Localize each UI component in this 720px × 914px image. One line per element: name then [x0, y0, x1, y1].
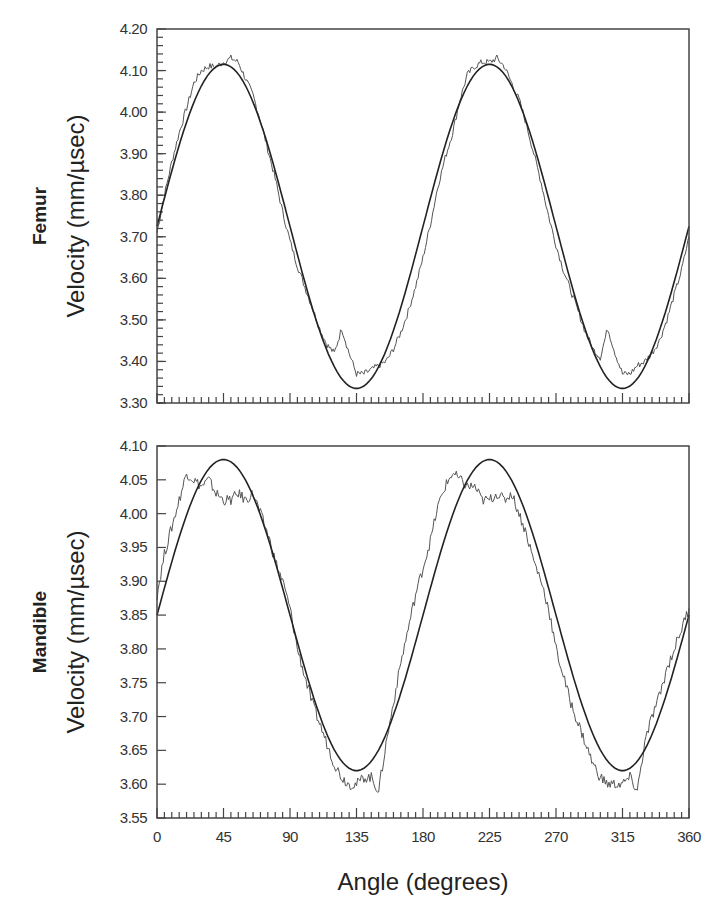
x-tick-label: 0	[153, 828, 161, 845]
x-tick-label: 225	[478, 828, 502, 845]
mandible-measured-line	[157, 471, 689, 792]
y-tick-label: 4.10	[120, 437, 147, 454]
y-tick-label: 3.60	[120, 775, 147, 792]
y-tick-label: 3.60	[120, 269, 147, 286]
y-tick-label: 4.00	[120, 103, 147, 120]
y-tick-label: 4.10	[120, 62, 147, 79]
y-tick-label: 3.95	[120, 538, 147, 555]
x-tick-label: 270	[544, 828, 568, 845]
x-tick-label: 45	[216, 828, 232, 845]
x-tick-label: 135	[345, 828, 369, 845]
x-tick-label: 180	[411, 828, 435, 845]
y-tick-label: 4.05	[120, 471, 147, 488]
x-tick-label: 315	[611, 828, 635, 845]
y-tick-label: 3.40	[120, 352, 147, 369]
y-tick-label: 3.85	[120, 606, 147, 623]
chart-figure: 3.303.403.503.603.703.803.904.004.104.20…	[0, 0, 720, 914]
mandible-panel-title: Mandible	[29, 591, 50, 673]
y-tick-label: 3.70	[120, 708, 147, 725]
y-tick-label: 3.30	[120, 394, 147, 411]
femur-plot-frame	[157, 29, 689, 403]
x-tick-label: 360	[677, 828, 701, 845]
mandible-y-axis-title: Velocity (mm/µsec)	[62, 530, 89, 733]
femur-panel-title: Femur	[29, 186, 50, 245]
femur-x-axis	[157, 393, 689, 403]
y-tick-label: 3.80	[120, 186, 147, 203]
mandible-x-axis	[157, 808, 689, 818]
femur-y-axis-title: Velocity (mm/µsec)	[62, 114, 89, 317]
y-tick-label: 3.65	[120, 741, 147, 758]
y-tick-label: 3.55	[120, 809, 147, 826]
y-tick-label: 3.70	[120, 228, 147, 245]
mandible-fit-line	[157, 460, 689, 771]
y-tick-label: 3.90	[120, 145, 147, 162]
y-tick-label: 3.90	[120, 572, 147, 589]
x-axis-tick-labels: 04590135180225270315360	[153, 828, 701, 845]
x-tick-label: 90	[282, 828, 298, 845]
y-tick-label: 4.20	[120, 20, 147, 37]
femur-fit-line	[157, 64, 689, 388]
femur-measured-line	[157, 55, 689, 377]
femur-plot: 3.303.403.503.603.703.803.904.004.104.20	[120, 20, 689, 411]
y-tick-label: 3.50	[120, 311, 147, 328]
y-tick-label: 3.75	[120, 674, 147, 691]
y-tick-label: 3.80	[120, 640, 147, 657]
x-axis-title: Angle (degrees)	[338, 868, 509, 895]
y-tick-label: 4.00	[120, 505, 147, 522]
mandible-y-axis: 3.553.603.653.703.753.803.853.903.954.00…	[120, 437, 166, 826]
mandible-plot: 3.553.603.653.703.753.803.853.903.954.00…	[120, 437, 689, 826]
